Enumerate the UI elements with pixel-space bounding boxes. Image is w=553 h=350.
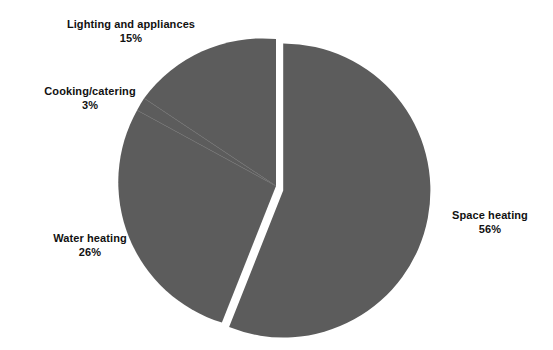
pie-label-space-heating: Space heating 56% bbox=[430, 209, 550, 237]
pie-label-cooking-catering-name: Cooking/catering bbox=[20, 85, 160, 99]
pie-chart-figure: Lighting and appliances 15% Cooking/cate… bbox=[0, 0, 553, 350]
pie-label-cooking-catering-value: 3% bbox=[20, 99, 160, 113]
pie-label-space-heating-value: 56% bbox=[430, 223, 550, 237]
pie-label-water-heating-value: 26% bbox=[25, 246, 155, 260]
pie-label-lighting-appliances-value: 15% bbox=[51, 32, 211, 46]
pie-chart-canvas bbox=[0, 0, 553, 350]
pie-label-space-heating-name: Space heating bbox=[430, 209, 550, 223]
pie-label-cooking-catering: Cooking/catering 3% bbox=[20, 85, 160, 113]
pie-label-water-heating-name: Water heating bbox=[25, 232, 155, 246]
pie-label-water-heating: Water heating 26% bbox=[25, 232, 155, 260]
pie-label-lighting-appliances: Lighting and appliances 15% bbox=[51, 18, 211, 46]
pie-label-lighting-appliances-name: Lighting and appliances bbox=[51, 18, 211, 32]
